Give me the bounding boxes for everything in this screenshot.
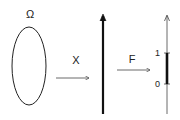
omega-label: Ω bbox=[26, 8, 34, 20]
diagram-canvas: Ω X F 1 0 bbox=[0, 0, 180, 120]
sample-space-ellipse bbox=[12, 27, 46, 105]
x-mapping-label: X bbox=[72, 54, 80, 66]
tick-one-label: 1 bbox=[155, 48, 160, 58]
tick-zero-label: 0 bbox=[155, 79, 160, 89]
real-line-arrowhead bbox=[100, 14, 106, 21]
f-mapping-label: F bbox=[129, 53, 136, 65]
